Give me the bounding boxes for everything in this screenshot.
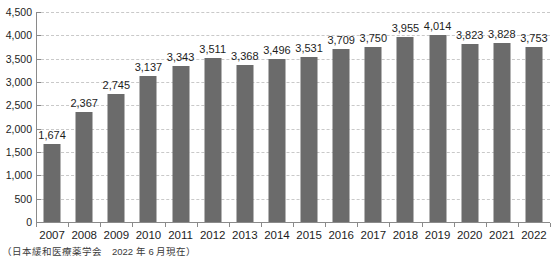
y-axis-tick-labels: 05001,0001,5002,0002,5003,0003,5004,0004… (0, 12, 32, 222)
x-axis-tick-mark (132, 223, 133, 227)
y-axis-tick-mark (36, 12, 41, 13)
bar[interactable] (76, 112, 93, 222)
bar-slot: 3,709 (325, 12, 357, 222)
y-axis-tick-mark (36, 82, 41, 83)
x-axis-tick-mark (229, 223, 230, 227)
bar-value-label: 3,753 (520, 33, 548, 44)
bar-value-label: 1,674 (38, 130, 66, 141)
x-axis-tick-label: 2007 (39, 229, 65, 241)
x-axis-tick-mark (68, 223, 69, 227)
bar[interactable] (172, 66, 189, 222)
x-axis-tick-label: 2018 (393, 229, 419, 241)
y-axis-tick-mark (36, 222, 41, 223)
y-axis-tick-label: 3,000 (0, 77, 32, 88)
bar-slot: 3,828 (486, 12, 518, 222)
y-axis-tick-label: 4,000 (0, 30, 32, 41)
x-axis-tick-label: 2010 (136, 229, 162, 241)
bar-value-label: 3,496 (263, 45, 291, 56)
y-axis-tick-mark (36, 129, 41, 130)
bar-value-label: 3,823 (456, 30, 484, 41)
y-axis-tick-mark (36, 175, 41, 176)
x-axis-tick-mark (197, 223, 198, 227)
x-axis-tick-label: 2017 (361, 229, 387, 241)
bar-slot: 3,823 (454, 12, 486, 222)
x-axis-tick-mark (550, 223, 551, 227)
bar[interactable] (301, 57, 318, 222)
x-axis-tick-mark (422, 223, 423, 227)
x-axis-tick-mark (454, 223, 455, 227)
bar[interactable] (333, 49, 350, 222)
x-axis-tick-label: 2008 (71, 229, 97, 241)
bar-slot: 3,753 (518, 12, 550, 222)
y-axis-tick-mark (36, 105, 41, 106)
y-axis-tick-label: 3,500 (0, 53, 32, 64)
chart-footnote: （日本緩和医療薬学会 2022 年 6 月現在） (2, 246, 196, 258)
bar[interactable] (268, 59, 285, 222)
bar[interactable] (236, 65, 253, 222)
bar[interactable] (204, 58, 221, 222)
x-axis-tick-label: 2011 (168, 229, 193, 241)
x-axis-tick-label: 2016 (328, 229, 354, 241)
bar-value-label: 3,137 (135, 62, 163, 73)
bar-value-label: 3,955 (392, 23, 420, 34)
bar[interactable] (429, 35, 446, 222)
bar-slot: 3,137 (132, 12, 164, 222)
bar-value-label: 3,709 (327, 35, 355, 46)
y-axis-tick-label: 1,500 (0, 147, 32, 158)
y-axis-tick-label: 500 (0, 193, 32, 204)
x-axis-tick-label: 2013 (232, 229, 258, 241)
x-axis-tick-label: 2015 (296, 229, 322, 241)
x-axis-tick-label: 2020 (457, 229, 483, 241)
x-axis-tick-mark (165, 223, 166, 227)
bar-value-label: 3,750 (360, 33, 388, 44)
bar-slot: 2,745 (100, 12, 132, 222)
bar[interactable] (493, 43, 510, 222)
y-axis-tick-mark (36, 199, 41, 200)
x-axis-tick-mark (325, 223, 326, 227)
x-axis-tick-mark (261, 223, 262, 227)
x-axis-tick-mark (36, 223, 37, 227)
x-axis-tick-mark (293, 223, 294, 227)
bar[interactable] (108, 94, 125, 222)
bar-slot: 3,531 (293, 12, 325, 222)
plot-area: 1,6742,3672,7453,1373,3433,5113,3683,496… (36, 12, 550, 222)
y-axis-tick-label: 4,500 (0, 7, 32, 18)
x-axis-tick-mark (389, 223, 390, 227)
bar[interactable] (397, 37, 414, 222)
bar-slot: 1,674 (36, 12, 68, 222)
x-axis-tick-mark (486, 223, 487, 227)
bar-value-label: 3,343 (167, 52, 195, 63)
bar-value-label: 3,828 (488, 29, 516, 40)
bar[interactable] (44, 144, 61, 222)
x-axis-tick-mark (357, 223, 358, 227)
y-axis-tick-label: 2,500 (0, 100, 32, 111)
bar-value-label: 3,531 (295, 43, 323, 54)
bar-slot: 3,750 (357, 12, 389, 222)
bar-slot: 3,511 (197, 12, 229, 222)
x-axis-tick-label: 2022 (521, 229, 547, 241)
bar-value-label: 4,014 (424, 21, 452, 32)
x-axis-tick-label: 2019 (425, 229, 451, 241)
bar[interactable] (461, 44, 478, 222)
bar-chart-figure: 05001,0001,5002,0002,5003,0003,5004,0004… (0, 0, 552, 262)
y-axis-tick-mark (36, 59, 41, 60)
y-axis-tick-mark (36, 152, 41, 153)
x-axis-tick-label: 2021 (489, 229, 515, 241)
bar-slot: 3,496 (261, 12, 293, 222)
y-axis-tick-label: 0 (0, 217, 32, 228)
bar[interactable] (365, 47, 382, 222)
bar-slot: 2,367 (68, 12, 100, 222)
y-axis-tick-label: 2,000 (0, 123, 32, 134)
x-axis-tick-label: 2014 (264, 229, 290, 241)
bar-value-label: 3,368 (231, 51, 259, 62)
y-axis-tick-mark (36, 35, 41, 36)
bar-slot: 3,368 (229, 12, 261, 222)
bar-slot: 3,955 (389, 12, 421, 222)
x-axis-tick-mark (100, 223, 101, 227)
x-axis-tick-mark (518, 223, 519, 227)
x-axis-tick-label: 2012 (200, 229, 226, 241)
bar[interactable] (525, 47, 542, 222)
bar[interactable] (140, 76, 157, 222)
x-axis: 2007200820092010201120122013201420152016… (36, 223, 550, 243)
x-axis-tick-label: 2009 (104, 229, 130, 241)
